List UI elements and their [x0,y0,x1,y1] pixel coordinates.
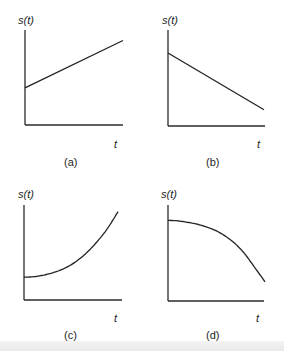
panel-a-xlabel: t [114,138,118,150]
panel-c-xlabel: t [114,312,118,324]
panel-a-ylabel: s(t) [18,14,34,26]
panel-c: s(t) t (c) [18,188,122,341]
panel-d-caption: (d) [206,329,219,341]
panel-c-caption: (c) [64,329,77,341]
panel-b-ylabel: s(t) [162,14,178,26]
panel-b-xlabel: t [257,138,261,150]
panel-b-caption: (b) [206,156,219,168]
page-edge-band [0,341,284,351]
panel-d-xlabel: t [256,312,260,324]
panel-d: s(t) t (d) [161,188,265,341]
panel-d-curve [168,220,265,281]
panel-c-ylabel: s(t) [18,188,34,200]
panel-a: s(t) t (a) [18,14,123,168]
panel-a-curve [25,41,123,88]
figure: s(t) t (a) s(t) t (b) s(t) t (c) s(t) t … [0,0,284,351]
panel-b-curve [168,53,264,110]
panel-a-caption: (a) [64,156,77,168]
panel-c-curve [24,212,118,278]
panel-d-ylabel: s(t) [161,188,177,200]
panel-b: s(t) t (b) [162,14,265,168]
